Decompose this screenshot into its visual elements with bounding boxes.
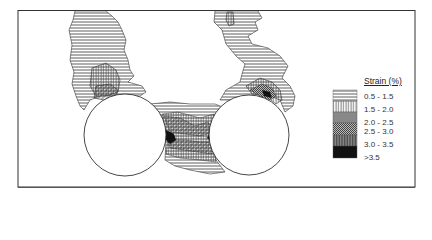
- legend-swatch-2.0-2.5: [333, 112, 357, 123]
- legend-label: 3.0 - 3.5: [364, 140, 393, 149]
- legend-label: 2.5 - 3.0: [364, 127, 393, 136]
- legend-swatch-1.5-2.0: [333, 101, 357, 112]
- legend-swatch-2.5-3.0: [333, 123, 357, 135]
- right-circle: [209, 95, 289, 175]
- left-circle: [84, 94, 166, 176]
- legend-label: 2.0 - 2.5: [364, 118, 393, 127]
- legend-swatch-0.5-1.5: [333, 90, 357, 101]
- legend-label: >3.5: [364, 153, 380, 162]
- legend-title: Strain (%): [364, 76, 402, 86]
- legend-swatches: [333, 90, 357, 158]
- legend-swatch-3.0-3.5: [333, 135, 357, 146]
- legend-label: 1.5 - 2.0: [364, 105, 393, 114]
- legend-swatch-gt-3.5: [333, 146, 357, 158]
- legend-label: 0.5 - 1.5: [364, 92, 393, 101]
